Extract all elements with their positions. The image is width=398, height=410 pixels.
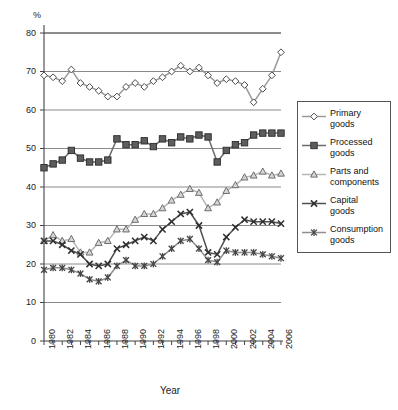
data-point-square: [132, 141, 138, 147]
legend-item-primary-goods[interactable]: Primarygoods: [301, 108, 386, 130]
chart-legend: PrimarygoodsProcessedgoodsParts andcompo…: [297, 101, 391, 253]
legend-label-line-1: Processed: [330, 137, 373, 148]
legend-item-consumption-goods[interactable]: Consumptiongoods: [301, 224, 386, 246]
data-point-triangle: [132, 216, 139, 222]
y-tick-label-10: 10: [14, 298, 36, 307]
x-tick-label-1994: 1994: [176, 329, 185, 349]
data-point-diamond: [86, 84, 93, 91]
legend-label-line-2: components: [330, 177, 379, 188]
data-point-square: [50, 161, 56, 167]
series-processed-goods: [41, 130, 284, 171]
data-point-diamond: [311, 113, 318, 120]
data-point-square: [196, 132, 202, 138]
legend-key-swatch: [301, 226, 327, 239]
square-filled-marker: [301, 138, 327, 151]
legend-item-label: Processedgoods: [327, 137, 373, 159]
data-point-x: [141, 234, 147, 240]
triangle-open-marker: [301, 167, 327, 180]
data-point-x: [114, 246, 120, 252]
data-point-asterisk: [114, 263, 120, 270]
data-point-square: [141, 138, 147, 144]
x-axis-title: Year: [110, 385, 230, 396]
data-point-square: [86, 159, 92, 165]
data-point-x: [169, 219, 175, 225]
cross-x-marker: [301, 196, 327, 209]
legend-label-line-1: Primary: [330, 108, 361, 119]
data-point-square: [260, 130, 266, 136]
data-point-diamond: [278, 49, 285, 56]
data-point-x: [159, 226, 165, 232]
x-tick-label-2002: 2002: [249, 329, 258, 349]
legend-item-label: Parts andcomponents: [327, 166, 379, 188]
legend-item-label: Consumptiongoods: [327, 224, 383, 246]
legend-key-swatch: [301, 197, 327, 210]
data-point-square: [232, 141, 238, 147]
data-point-asterisk: [160, 253, 166, 260]
x-tick-label-2006: 2006: [285, 329, 294, 349]
y-tick-label-30: 30: [14, 221, 36, 230]
data-point-triangle: [68, 235, 75, 241]
data-point-square: [178, 134, 184, 140]
data-point-triangle: [50, 232, 57, 238]
y-tick-label-60: 60: [14, 106, 36, 115]
diamond-open-marker: [301, 109, 327, 122]
data-point-square: [269, 130, 275, 136]
legend-label-line-2: goods: [330, 206, 358, 217]
x-tick-label-1984: 1984: [84, 329, 93, 349]
legend-key-swatch: [301, 139, 327, 152]
asterisk-marker: [301, 225, 327, 238]
data-point-square: [159, 136, 165, 142]
data-point-square: [205, 134, 211, 140]
x-tick-label-1982: 1982: [66, 329, 75, 349]
data-point-diamond: [223, 76, 230, 83]
data-point-triangle: [223, 187, 230, 193]
data-point-diamond: [232, 78, 239, 85]
data-point-square: [77, 155, 83, 161]
legend-label-line-2: goods: [330, 119, 361, 130]
legend-item-label: Capitalgoods: [327, 195, 358, 217]
legend-key-swatch: [301, 110, 327, 123]
y-tick-label-0: 0: [14, 337, 36, 346]
legend-item-parts-and-components[interactable]: Parts andcomponents: [301, 166, 386, 188]
data-point-asterisk: [78, 270, 84, 277]
data-point-square: [150, 143, 156, 149]
data-point-x: [223, 234, 229, 240]
series-line: [44, 172, 281, 253]
x-tick-label-1998: 1998: [212, 329, 221, 349]
data-point-diamond: [241, 82, 248, 89]
chart-figure: % 01020304050607080 19801982198419861988…: [0, 0, 398, 410]
legend-label-line-1: Parts and: [330, 166, 379, 177]
data-point-x: [68, 247, 74, 253]
data-point-square: [168, 140, 174, 146]
data-point-asterisk: [196, 245, 202, 252]
data-point-square: [59, 157, 65, 163]
series-consumption-goods: [41, 236, 284, 285]
data-point-square: [311, 142, 317, 148]
data-point-diamond: [41, 72, 48, 79]
x-tick-label-1990: 1990: [139, 329, 148, 349]
x-tick-label-1988: 1988: [121, 329, 130, 349]
x-tick-label-2000: 2000: [230, 329, 239, 349]
y-tick-label-20: 20: [14, 260, 36, 269]
data-point-square: [187, 136, 193, 142]
data-point-x: [123, 242, 129, 248]
legend-item-processed-goods[interactable]: Processedgoods: [301, 137, 386, 159]
data-point-triangle: [278, 170, 285, 176]
x-tick-label-1992: 1992: [157, 329, 166, 349]
data-point-diamond: [132, 80, 139, 87]
data-point-square: [41, 165, 47, 171]
y-tick-label-50: 50: [14, 144, 36, 153]
data-point-square: [250, 132, 256, 138]
data-point-square: [241, 140, 247, 146]
x-tick-label-1980: 1980: [48, 329, 57, 349]
data-point-x: [132, 238, 138, 244]
data-point-square: [123, 141, 129, 147]
data-point-triangle: [186, 185, 193, 191]
legend-item-capital-goods[interactable]: Capitalgoods: [301, 195, 386, 217]
data-point-square: [223, 147, 229, 153]
x-tick-label-2004: 2004: [267, 329, 276, 349]
series-capital-goods: [41, 209, 284, 269]
legend-label-line-2: goods: [330, 148, 373, 159]
data-point-asterisk: [169, 245, 175, 252]
series-parts-and-components: [41, 168, 285, 255]
